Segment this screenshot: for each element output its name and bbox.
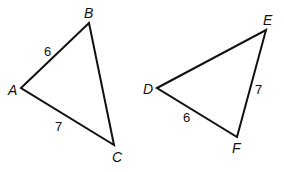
vertex-label-b: B (84, 5, 93, 21)
vertex-label-f: F (232, 140, 242, 156)
side-label-ab: 6 (44, 44, 51, 59)
side-label-df: 6 (183, 110, 190, 125)
vertex-label-c: C (112, 149, 123, 165)
side-label-ef: 7 (255, 82, 262, 97)
vertex-label-d: D (143, 81, 153, 97)
side-label-ac: 7 (55, 119, 62, 134)
triangle-abc (21, 23, 114, 145)
triangle-def (157, 30, 266, 137)
vertex-label-a: A (7, 82, 17, 98)
triangles-diagram: A B C 6 7 D E F 6 7 (0, 0, 284, 172)
vertex-label-e: E (263, 12, 273, 28)
